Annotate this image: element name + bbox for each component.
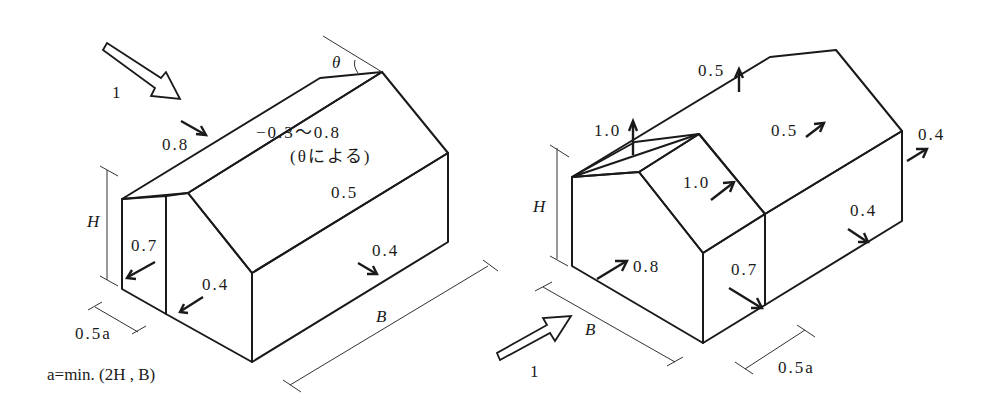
left-gable-edge-zone (122, 196, 166, 314)
right-height-label: H (532, 197, 547, 216)
roof-edge-zone-label: 1.0 (683, 173, 710, 192)
right-edge-width-label: 0.5a (778, 358, 815, 377)
theta-label: θ (332, 53, 340, 72)
right-building: 0.5 1.0 0.5 1.0 0.4 0.4 0.8 0.7 H (497, 50, 945, 381)
right-wind-label: 1 (530, 362, 541, 381)
far-wall-label: 0.4 (918, 125, 945, 144)
right-width-label: B (585, 320, 596, 339)
wind-pressure-diagram: θ 1 0.8 −0.3〜0.8 (θによる) 0.5 0.4 0.7 0.4 … (0, 0, 995, 413)
windward-roof-label: 0.8 (162, 135, 189, 154)
leeward-roof-note: (θによる) (290, 147, 371, 166)
gable-edge-label: 0.7 (131, 236, 158, 255)
right-wind-arrow-icon (497, 316, 571, 360)
roof-main-label: 0.5 (771, 121, 798, 140)
roof-top-label: 0.5 (698, 61, 725, 80)
gable-windward-label: 0.8 (633, 257, 660, 276)
left-height-label: H (86, 212, 101, 231)
gable-inner-label: 0.4 (202, 275, 229, 294)
right-roof-edge-zone-right (639, 134, 765, 253)
left-length-label: B (376, 307, 387, 326)
side-edge-label: 0.7 (731, 260, 758, 279)
left-edge-width-label: 0.5a (75, 324, 112, 343)
roof-edge-up-label: 1.0 (594, 121, 621, 140)
left-wind-label: 1 (112, 83, 123, 102)
side-wall-label: 0.4 (850, 201, 877, 220)
long-wall-label: 0.4 (372, 241, 399, 260)
roof-center-label: 0.5 (331, 183, 358, 202)
leeward-roof-label: −0.3〜0.8 (256, 123, 341, 142)
formula-label: a=min. (2H , B) (47, 365, 155, 384)
right-side-wall (765, 131, 902, 305)
left-building: θ 1 0.8 −0.3〜0.8 (θによる) 0.5 0.4 0.7 0.4 … (47, 36, 498, 392)
